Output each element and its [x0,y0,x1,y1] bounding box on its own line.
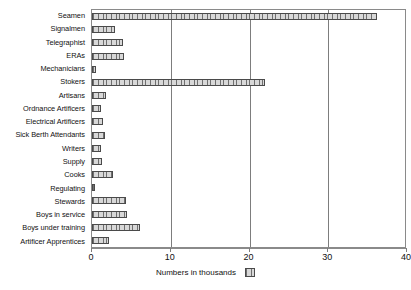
bar [92,158,102,165]
x-axis-tick-label: 40 [401,253,411,262]
y-axis-label: Artificer Apprentices [0,235,89,248]
y-axis-label: Artisans [0,89,89,102]
x-axis-tick-label: 0 [88,253,93,262]
x-axis-tick-label: 20 [243,253,253,262]
y-axis-label: Stewards [0,195,89,208]
bar [92,92,106,99]
bars-layer [92,10,405,247]
bar [92,26,115,33]
y-axis-label: Ordnance Artificers [0,102,89,115]
y-axis-label: Seamen [0,9,89,22]
bar [92,132,105,139]
bar-row [92,115,405,128]
bar [92,237,109,244]
bar-row [92,76,405,89]
bar-row [92,102,405,115]
bar-row [92,23,405,36]
bar [92,13,377,20]
bar-row [92,129,405,142]
bar [92,66,96,73]
bar-row [92,181,405,194]
x-axis-tick-label: 30 [322,253,332,262]
legend-swatch-icon [245,268,255,277]
y-axis-label: Writers [0,142,89,155]
bar-row [92,234,405,247]
bar-row [92,36,405,49]
bar-row [92,10,405,23]
bar [92,39,123,46]
bar-row [92,155,405,168]
y-axis-label: Sick Berth Attendants [0,129,89,142]
bar [92,145,101,152]
bar [92,224,140,231]
bar-chart: SeamenSignalmenTelegraphistERAsMechanici… [0,0,411,290]
y-axis-label: Stokers [0,75,89,88]
bar-row [92,63,405,76]
legend-label: Numbers in thousands [156,269,236,277]
bar [92,184,95,191]
y-axis-category-labels: SeamenSignalmenTelegraphistERAsMechanici… [0,9,89,248]
bar [92,171,113,178]
y-axis-label: Cooks [0,168,89,181]
y-axis-label: Supply [0,155,89,168]
y-axis-label: Regulating [0,182,89,195]
x-axis-tick-label: 10 [165,253,175,262]
y-axis-label: Signalmen [0,22,89,35]
bar [92,211,127,218]
y-axis-label: Boys under training [0,222,89,235]
y-axis-label: Electrical Artificers [0,115,89,128]
plot-area [91,9,406,248]
bar-row [92,89,405,102]
bar [92,79,265,86]
y-axis-label: ERAs [0,49,89,62]
bar-row [92,168,405,181]
y-axis-label: Telegraphist [0,36,89,49]
bar-row [92,221,405,234]
bar [92,197,126,204]
y-axis-label: Boys in service [0,208,89,221]
bar-row [92,50,405,63]
y-axis-label: Mechanicians [0,62,89,75]
bar [92,118,103,125]
bar-row [92,142,405,155]
bar [92,53,124,60]
bar-row [92,194,405,207]
bar [92,105,101,112]
bar-row [92,208,405,221]
chart-legend: Numbers in thousands [0,268,411,277]
